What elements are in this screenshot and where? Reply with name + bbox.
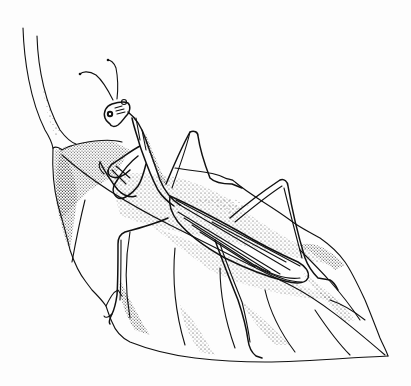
antenna-left bbox=[80, 72, 113, 100]
illustration-canvas: Pen-and-ink illustration of a praying ma… bbox=[0, 0, 411, 386]
leaf-stem bbox=[23, 28, 76, 148]
mantis-on-leaf-drawing bbox=[0, 0, 411, 386]
mantis-head bbox=[104, 100, 129, 127]
